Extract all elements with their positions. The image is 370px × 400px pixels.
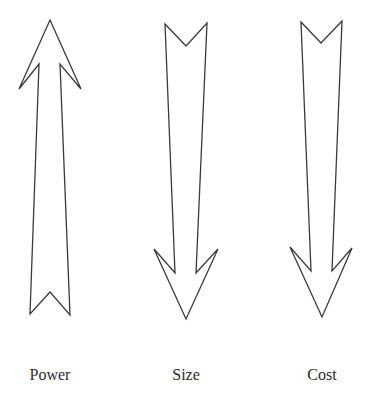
size-label: Size <box>172 365 200 385</box>
size-down-arrow-icon <box>154 23 218 319</box>
trend-arrows-diagram <box>0 0 370 400</box>
power-label: Power <box>30 365 71 385</box>
cost-down-arrow-icon <box>290 21 352 317</box>
power-up-arrow-icon <box>19 20 81 315</box>
cost-label: Cost <box>307 365 336 385</box>
